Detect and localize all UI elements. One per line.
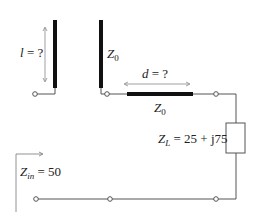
load-value: = 25 + j75	[170, 131, 227, 146]
stub-impedance-label: Z0	[107, 47, 119, 63]
distance-value: = ?	[149, 66, 169, 81]
load-node-bottom	[214, 197, 219, 202]
junction-node	[105, 92, 110, 97]
stub-length-label: l = ?	[20, 46, 43, 59]
bottom-node-mid	[108, 197, 113, 202]
input-impedance-label: Zin = 50	[20, 165, 61, 181]
terminal-node	[33, 92, 38, 97]
load-impedance-box	[226, 123, 245, 153]
bottom-node-left	[34, 197, 39, 202]
input-arrow	[16, 154, 42, 212]
impedance-sub: 0	[161, 107, 166, 117]
input-value: = 50	[34, 164, 61, 179]
impedance-sub: 0	[114, 53, 119, 63]
load-node-top	[214, 92, 219, 97]
line-distance-label: d = ?	[142, 67, 168, 80]
load-impedance-label: ZL = 25 + j75	[158, 132, 228, 148]
stub-length-value: = ?	[24, 45, 44, 60]
stub-connector	[37, 88, 55, 94]
wire	[218, 94, 236, 123]
circuit-drawing	[0, 0, 257, 224]
line-impedance-label: Z0	[154, 101, 166, 117]
wire	[218, 153, 236, 199]
stub-matching-diagram: l = ? Z0 d = ? Z0 ZL = 25 + j75 Zin = 50	[0, 0, 257, 224]
